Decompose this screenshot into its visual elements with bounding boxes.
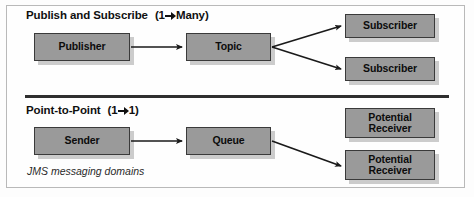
section-title-text: Point-to-Point (26, 104, 101, 116)
node-queue: Queue (186, 127, 271, 155)
cardinality-close-paren: ) (205, 9, 209, 21)
arrow-right-icon (118, 106, 129, 115)
section-title-point-to-point: Point-to-Point(11) (26, 104, 139, 116)
jms-messaging-domains-figure: Publish and Subscribe(1Many) Point-to-Po… (0, 0, 474, 197)
cardinality-to: Many (176, 9, 205, 21)
section-cardinality: (1Many) (155, 9, 209, 21)
section-title-publish-subscribe: Publish and Subscribe(1Many) (26, 9, 209, 21)
node-label: Subscriber (363, 63, 417, 75)
node-label-block: Potential Receiver (368, 112, 411, 135)
cardinality-close-paren: ) (135, 104, 139, 116)
node-topic: Topic (186, 33, 271, 61)
figure-caption: JMS messaging domains (27, 165, 144, 177)
section-cardinality: (11) (108, 104, 139, 116)
section-title-text: Publish and Subscribe (26, 9, 148, 21)
node-label: Subscriber (363, 20, 417, 32)
node-label: Queue (212, 135, 244, 147)
node-potential-receiver-2: Potential Receiver (345, 150, 435, 180)
arrow-right-icon (165, 11, 176, 20)
node-label-line-2: Receiver (368, 165, 411, 177)
node-sender: Sender (34, 127, 130, 155)
node-label-line-2: Receiver (368, 123, 411, 135)
node-label: Sender (65, 135, 100, 147)
node-label: Publisher (59, 41, 106, 53)
node-subscriber-1: Subscriber (345, 14, 435, 38)
node-subscriber-2: Subscriber (345, 57, 435, 81)
node-potential-receiver-1: Potential Receiver (345, 108, 435, 138)
node-publisher: Publisher (34, 33, 130, 61)
node-label-block: Potential Receiver (368, 154, 411, 177)
section-divider (25, 95, 449, 98)
node-label: Topic (215, 41, 242, 53)
